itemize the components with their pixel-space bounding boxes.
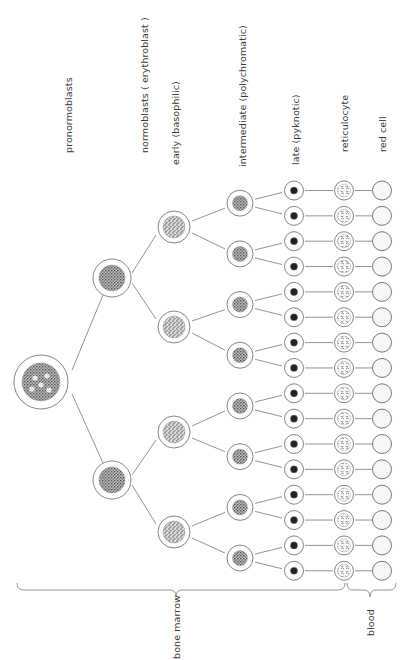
red-cell <box>373 460 392 479</box>
red-cell <box>373 282 392 301</box>
intermediate-polychromatic-cell <box>227 241 253 267</box>
red-cell <box>373 409 392 428</box>
reticulocyte-cell <box>335 435 354 454</box>
early-basophilic-cell <box>158 516 190 548</box>
late-pyknotic-cell <box>285 257 304 276</box>
intermediate-polychromatic-cell <box>227 545 253 571</box>
reticulocyte-cell <box>335 511 354 530</box>
label-pronormoblasts: pronormoblasts <box>63 77 74 153</box>
red-cell <box>373 511 392 530</box>
column-labels: pronormoblasts normoblasts ( erythroblas… <box>63 17 388 167</box>
intermediate-polychromatic-cell <box>227 292 253 318</box>
red-cell <box>373 435 392 454</box>
late-pyknotic-cell <box>285 536 304 555</box>
reticulocyte-cell <box>335 561 354 580</box>
erythropoiesis-diagram: pronormoblasts normoblasts ( erythroblas… <box>0 0 409 660</box>
reticulocyte-cell <box>335 536 354 555</box>
red-cell <box>373 257 392 276</box>
normoblast-cell <box>93 259 131 297</box>
blood-brace <box>347 583 396 597</box>
late-pyknotic-cell <box>285 485 304 504</box>
red-cell <box>373 358 392 377</box>
early-basophilic-cell <box>158 211 190 243</box>
late-pyknotic-cell <box>285 181 304 200</box>
late-pyknotic-cell <box>285 409 304 428</box>
label-red-cell: red cell <box>377 116 388 152</box>
late-pyknotic-cell <box>285 511 304 530</box>
red-cell <box>373 536 392 555</box>
reticulocyte-cell <box>335 460 354 479</box>
reticulocyte-cell <box>335 333 354 352</box>
early-basophilic-cell <box>158 311 190 343</box>
red-cell <box>373 485 392 504</box>
late-pyknotic-cell <box>285 460 304 479</box>
normoblast-cell <box>93 461 131 499</box>
label-intermediate-polychromatic: intermediate (polychromatic) <box>237 25 248 167</box>
red-cell <box>373 384 392 403</box>
red-cell <box>373 308 392 327</box>
label-bone-marrow: bone marrow <box>171 595 182 659</box>
red-cell <box>373 181 392 200</box>
pronormoblast-cell <box>14 355 68 409</box>
reticulocyte-cell <box>335 181 354 200</box>
late-pyknotic-cell <box>285 308 304 327</box>
late-pyknotic-cell <box>285 232 304 251</box>
red-cell <box>373 232 392 251</box>
intermediate-polychromatic-cell <box>227 342 253 368</box>
bone-marrow-brace <box>17 583 345 597</box>
intermediate-polychromatic-cell <box>227 190 253 216</box>
lineage-connectors <box>72 191 372 571</box>
early-basophilic-cell <box>158 416 190 448</box>
label-reticulocyte: reticulocyte <box>339 95 350 152</box>
label-normoblasts: normoblasts ( erythroblast ) <box>139 17 150 153</box>
red-cell <box>373 206 392 225</box>
late-pyknotic-cell <box>285 561 304 580</box>
late-pyknotic-cell <box>285 358 304 377</box>
cells <box>14 181 392 580</box>
reticulocyte-cell <box>335 308 354 327</box>
label-blood: blood <box>365 609 376 636</box>
late-pyknotic-cell <box>285 435 304 454</box>
reticulocyte-cell <box>335 232 354 251</box>
reticulocyte-cell <box>335 282 354 301</box>
reticulocyte-cell <box>335 485 354 504</box>
reticulocyte-cell <box>335 409 354 428</box>
intermediate-polychromatic-cell <box>227 444 253 470</box>
late-pyknotic-cell <box>285 384 304 403</box>
label-late-pyknotic: late (pyknotic) <box>290 94 301 165</box>
late-pyknotic-cell <box>285 206 304 225</box>
red-cell <box>373 333 392 352</box>
reticulocyte-cell <box>335 206 354 225</box>
red-cell <box>373 561 392 580</box>
label-early-basophilic: early (basophilic) <box>170 81 181 165</box>
late-pyknotic-cell <box>285 333 304 352</box>
reticulocyte-cell <box>335 257 354 276</box>
reticulocyte-cell <box>335 384 354 403</box>
late-pyknotic-cell <box>285 282 304 301</box>
reticulocyte-cell <box>335 358 354 377</box>
intermediate-polychromatic-cell <box>227 393 253 419</box>
intermediate-polychromatic-cell <box>227 494 253 520</box>
